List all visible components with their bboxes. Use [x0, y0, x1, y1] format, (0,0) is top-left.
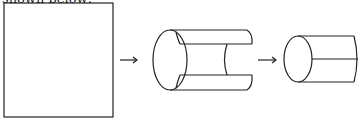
right-arrow-icon	[258, 57, 276, 63]
square-sheet	[4, 3, 113, 117]
open-cylinder	[153, 30, 252, 90]
closed-cylinder	[284, 36, 358, 82]
figure	[0, 0, 362, 120]
right-arrow-icon	[120, 57, 137, 63]
